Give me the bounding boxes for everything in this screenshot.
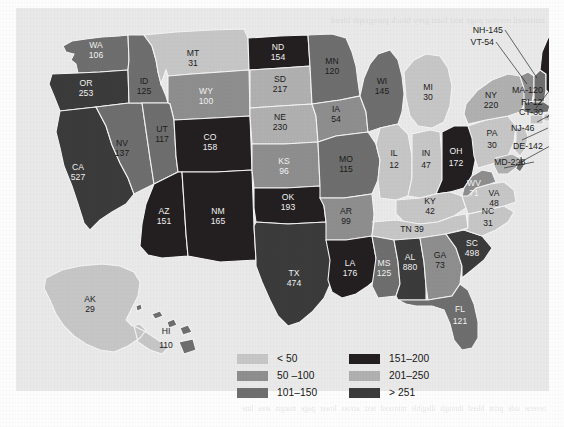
legend-item-50-100[interactable]: 50 –100 [237, 369, 317, 382]
legend-item-201-250[interactable]: 201–250 [349, 369, 429, 382]
legend-label-lt50: < 50 [277, 353, 298, 364]
state-shape-ne[interactable] [250, 104, 318, 144]
legend-item-151-200[interactable]: 151–200 [349, 352, 429, 365]
legend-label-gt251: > 251 [389, 387, 415, 398]
state-shape-mo[interactable] [318, 132, 380, 198]
state-shape-wi[interactable] [360, 50, 404, 132]
callout-md: MD-228 [494, 157, 525, 167]
state-shape-in[interactable] [408, 130, 442, 198]
legend-swatch-lt50 [237, 354, 268, 364]
state-shape-la[interactable] [326, 236, 380, 298]
state-shape-wa[interactable] [63, 35, 129, 73]
map-legend: < 50 50 –100 101–150 151–200 201–250 [237, 352, 467, 406]
legend-label-101-150: 101–150 [277, 387, 317, 398]
state-shape-ks[interactable] [252, 142, 320, 188]
legend-swatch-201-250 [349, 371, 380, 381]
scanned-page: mirrored reverse page text faint grey bl… [0, 0, 564, 427]
leader-nh [505, 30, 537, 78]
legend-item-101-150[interactable]: 101–150 [237, 386, 317, 399]
state-shape-nm[interactable] [182, 170, 256, 262]
legend-item-gt251[interactable]: > 251 [349, 386, 429, 399]
callout-nh: NH-145 [473, 25, 503, 35]
state-shape-mn[interactable] [308, 34, 360, 104]
callout-ct: CT-30 [519, 107, 543, 117]
callout-nj: NJ-46 [511, 123, 535, 133]
callout-ma: MA-120 [512, 85, 543, 95]
legend-label-201-250: 201–250 [389, 370, 429, 381]
legend-label-50-100: 50 –100 [277, 370, 315, 381]
callout-ri: RI-12 [521, 97, 543, 107]
map-panel: WA 106 OR 253 CA 527 NV 137 ID 125 MT 31… [16, 8, 549, 391]
legend-item-lt50[interactable]: < 50 [237, 352, 317, 365]
state-shape-il[interactable] [376, 124, 412, 200]
legend-swatch-151-200 [349, 354, 380, 364]
state-shape-sd[interactable] [250, 66, 312, 108]
state-shape-ny[interactable] [464, 74, 526, 124]
state-shape-ar[interactable] [320, 194, 374, 240]
us-choropleth-map: WA 106 OR 253 CA 527 NV 137 ID 125 MT 31… [16, 8, 549, 391]
legend-swatch-50-100 [237, 371, 268, 381]
legend-column-right: 151–200 201–250 > 251 [349, 352, 429, 399]
callout-vt: VT-54 [471, 37, 495, 47]
state-shape-ri[interactable] [544, 114, 549, 121]
legend-swatch-101-150 [237, 388, 268, 398]
state-shape-nd[interactable] [248, 35, 310, 70]
state-shape-ok[interactable] [254, 186, 326, 224]
state-shape-wy[interactable] [168, 70, 250, 120]
callout-de: DE-142 [513, 141, 543, 151]
state-shape-ak[interactable] [44, 264, 168, 354]
legend-label-151-200: 151–200 [389, 353, 429, 364]
state-shape-tx[interactable] [254, 222, 334, 326]
state-shape-co[interactable] [174, 116, 252, 172]
legend-column-left: < 50 50 –100 101–150 [237, 352, 317, 399]
state-shape-mi[interactable] [404, 54, 452, 128]
legend-swatch-gt251 [349, 388, 380, 398]
